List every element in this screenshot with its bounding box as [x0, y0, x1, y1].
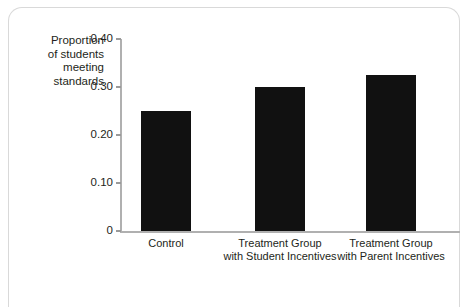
y-tick-mark — [116, 86, 121, 88]
y-tick-mark — [116, 38, 121, 40]
y-tick-label: 0 — [107, 225, 113, 237]
bar-treatment-parent-incentives — [366, 75, 416, 231]
bar-control — [141, 111, 191, 231]
y-tick-mark — [116, 230, 121, 232]
y-tick-mark — [116, 182, 121, 184]
y-axis-title-line-3: meeting — [19, 61, 104, 75]
y-tick-mark — [116, 134, 121, 136]
x-axis-line — [120, 231, 460, 233]
y-tick-label: 0.20 — [91, 129, 113, 141]
bar-treatment-student-incentives — [255, 87, 305, 231]
x-axis-label-parent-incentives-line-1: Treatment Group — [316, 237, 466, 250]
y-axis-title-line-2: of students — [19, 48, 104, 62]
y-tick-label: 0.30 — [91, 81, 113, 93]
x-axis-label-parent-incentives: Treatment Group with Parent Incentives — [316, 237, 466, 263]
plot-area: 00.100.200.300.40 Control Treatment Grou… — [120, 39, 460, 231]
y-tick-label: 0.10 — [91, 177, 113, 189]
figure-frame: Proportion of students meeting standards… — [8, 7, 460, 307]
x-axis-label-parent-incentives-line-2: with Parent Incentives — [316, 250, 466, 263]
y-tick-label: 0.40 — [91, 33, 113, 45]
